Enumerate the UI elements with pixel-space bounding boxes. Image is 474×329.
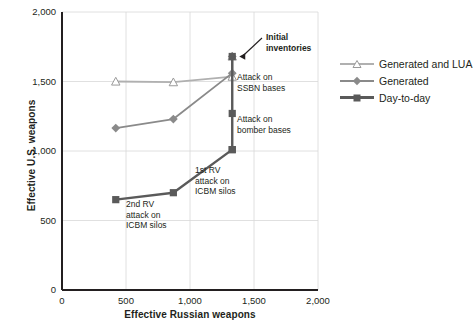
legend-label-day-to-day: Day-to-day: [379, 92, 430, 104]
diamond-marker-icon: [352, 76, 362, 86]
chart-annotation: 2nd RV attack on ICBM silos: [126, 199, 167, 231]
data-point-diamond: [111, 124, 120, 133]
data-point-square: [170, 189, 177, 196]
legend-swatch-day-to-day: [340, 91, 374, 105]
legend-swatch-generated-and-lua: [340, 57, 374, 71]
chart-container: Effective U.S. weapons Effective Russian…: [0, 0, 474, 329]
chart-annotation: 1st RV attack on ICBM silos: [195, 165, 236, 197]
chart-legend: Generated and LUA Generated Day-to-day: [340, 55, 472, 106]
plot-area: [0, 0, 474, 329]
data-point-square: [229, 110, 236, 117]
triangle-marker-icon: [352, 59, 362, 69]
annotation-leader-arrow: [239, 38, 262, 60]
chart-annotation: Initial inventories: [266, 32, 311, 53]
chart-annotation: Attack on SSBN bases: [237, 72, 285, 93]
legend-item-day-to-day: Day-to-day: [340, 89, 472, 106]
series-generated: [111, 52, 236, 132]
square-marker-icon: [352, 93, 362, 103]
legend-item-generated-and-lua: Generated and LUA: [340, 55, 472, 72]
data-point-square: [229, 146, 236, 153]
legend-swatch-generated: [340, 74, 374, 88]
chart-annotation: Attack on bomber bases: [237, 114, 291, 135]
legend-label-generated: Generated: [379, 75, 429, 87]
data-point-square: [112, 196, 119, 203]
legend-label-generated-and-lua: Generated and LUA: [379, 58, 472, 70]
legend-item-generated: Generated: [340, 72, 472, 89]
series-generated-and-lua: [112, 52, 237, 85]
data-point-square: [229, 53, 236, 60]
